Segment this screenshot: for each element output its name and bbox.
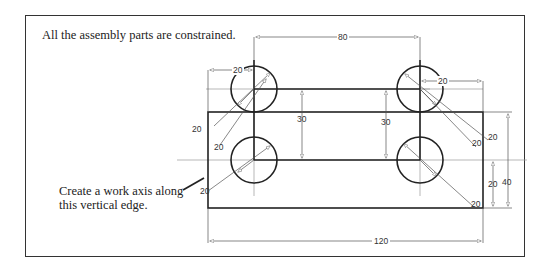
dim-tab-height-left: 30 bbox=[297, 114, 307, 124]
dim-ul-diameter-1: 20 bbox=[192, 124, 202, 134]
assembly-drawing: 80 120 40 20 30 30 20 20 20 20 20 20 20 … bbox=[0, 0, 553, 272]
dim-overall-width: 120 bbox=[374, 236, 388, 246]
dim-tab-height-mid: 30 bbox=[381, 117, 391, 127]
dim-top-spacing: 80 bbox=[338, 32, 348, 42]
dim-ur-diameter-2: 20 bbox=[472, 138, 482, 148]
dim-lr-diameter: 20 bbox=[471, 199, 481, 209]
dim-top-right-offset: 20 bbox=[438, 76, 448, 86]
dimension-labels: 80 120 40 20 30 30 20 20 20 20 20 20 20 … bbox=[192, 32, 512, 246]
dim-ll-diameter: 20 bbox=[200, 186, 210, 196]
dim-ul-diameter-2: 20 bbox=[214, 142, 224, 152]
dim-lower-offset: 20 bbox=[488, 179, 498, 189]
dim-ur-diameter-1: 20 bbox=[488, 132, 498, 142]
dim-top-left-offset: 20 bbox=[233, 65, 243, 75]
dim-overall-height: 40 bbox=[502, 177, 512, 187]
